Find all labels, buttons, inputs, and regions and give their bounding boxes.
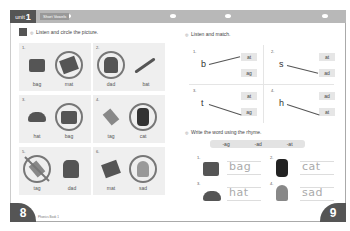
panel-number: 2. (96, 45, 99, 50)
rhyme-option: -at (287, 140, 293, 148)
item-number: 2. (271, 49, 274, 54)
match-line (209, 56, 240, 65)
written-word: sad (302, 186, 323, 199)
dad-icon[interactable] (59, 157, 83, 181)
panel-number: 6. (96, 149, 99, 154)
match-line (209, 104, 242, 115)
bat-icon[interactable] (133, 53, 157, 77)
left-page: ◎ Listen and circle the picture. 1. bag … (10, 23, 175, 222)
rime-option[interactable]: at (241, 53, 257, 61)
write-item-3: 3. hat (197, 181, 272, 205)
panel-number: 3. (22, 97, 25, 102)
write-item-2: 2. cat (270, 155, 345, 179)
word-caption: tag (96, 133, 126, 139)
panel-2: 2. dad bat (93, 43, 165, 91)
written-word: hat (229, 186, 249, 199)
match-line (287, 104, 320, 115)
word-caption: bag (54, 133, 84, 139)
written-word: bag (229, 160, 251, 173)
word-caption: dad (57, 185, 87, 191)
footer-text: Phonics Book 1 (38, 215, 59, 219)
instruction-text: Listen and match. (191, 31, 230, 37)
word-caption: mat (54, 81, 84, 87)
match-item-4: 4. h ad at (267, 86, 339, 120)
onset-letter: h (279, 98, 284, 108)
word-caption: bag (22, 81, 52, 87)
rime-option[interactable]: ag (241, 108, 257, 116)
rime-option[interactable]: at (319, 108, 335, 116)
rhyme-option: -ad (255, 140, 262, 148)
divider (189, 84, 334, 85)
rime-option[interactable]: ad (319, 69, 335, 77)
tag-icon[interactable] (99, 105, 123, 129)
panel-4: 4. tag cat (93, 95, 165, 143)
bag-icon[interactable] (25, 53, 49, 77)
instruction-write: ◎ Write the word using the rhyme. (185, 129, 262, 135)
panel-1: 1. bag mat (19, 43, 91, 91)
hat-icon (203, 185, 221, 203)
unit-number: 1 (26, 12, 31, 22)
panel-number: 5. (22, 149, 25, 154)
instruction-text: Write the word using the rhyme. (191, 129, 262, 135)
instruction-circle: ◎ Listen and circle the picture. (19, 28, 98, 36)
write-item-1: 1. bag (197, 155, 272, 179)
section-label: Short Vowels (40, 13, 69, 20)
unit-word: unit (15, 14, 25, 20)
word-caption: bat (131, 81, 161, 87)
decor-dot (225, 14, 231, 18)
decor-dot (170, 14, 176, 18)
match-item-1: 1. b at ag (189, 47, 261, 81)
write-item-4: 4. sad (270, 181, 345, 205)
unit-badge: unit 1 (10, 10, 36, 23)
rhyme-option: -ag (222, 140, 229, 148)
right-page: ◎ Listen and match. 1. b at ag 2. s at a… (175, 23, 346, 222)
rime-option[interactable]: ad (319, 92, 335, 100)
written-word: cat (302, 160, 321, 173)
rime-option[interactable]: at (319, 53, 335, 61)
book-spread: unit 1 Short Vowels ◎ Listen and circle … (0, 10, 350, 222)
instruction-match: ◎ Listen and match. (185, 31, 230, 37)
word-caption: cat (128, 133, 158, 139)
item-number: 1. (197, 155, 200, 160)
cat-icon[interactable] (129, 103, 157, 131)
item-number: 1. (193, 49, 196, 54)
decor-dot (322, 14, 328, 18)
cat-icon (276, 159, 294, 177)
sad-icon[interactable] (129, 155, 157, 183)
match-item-2: 2. s at ad (267, 47, 339, 81)
panel-number: 1. (22, 45, 25, 50)
onset-letter: s (279, 59, 284, 69)
panel-6: 6. mat sad (93, 147, 165, 195)
match-item-3: 3. t at ag (189, 86, 261, 120)
item-number: 3. (193, 88, 196, 93)
onset-letter: b (201, 59, 206, 69)
rime-option[interactable]: ag (241, 69, 257, 77)
hat-icon[interactable] (25, 105, 49, 129)
item-number: 3. (197, 181, 200, 186)
bag-icon (203, 159, 221, 177)
item-number: 4. (270, 181, 273, 186)
panel-number: 4. (96, 97, 99, 102)
instruction-text: Listen and circle the picture. (36, 29, 98, 35)
match-line (287, 65, 318, 74)
pencil-icon: ◎ (185, 130, 188, 135)
qr-code-icon[interactable] (19, 28, 27, 36)
word-caption: mat (96, 185, 126, 191)
word-caption: tag (22, 185, 52, 191)
rhyme-bank: -ag -ad -at (210, 140, 305, 148)
panel-3: 3. hat bag (19, 95, 91, 143)
onset-letter: t (201, 98, 204, 108)
word-caption: hat (22, 133, 52, 139)
mat-icon[interactable] (99, 157, 123, 181)
rime-option[interactable]: at (241, 92, 257, 100)
sad-icon (276, 185, 294, 203)
item-number: 4. (271, 88, 274, 93)
tag-icon[interactable] (23, 155, 51, 183)
word-caption: dad (96, 81, 126, 87)
bag-icon[interactable] (55, 103, 83, 131)
audio-icon: ◎ (185, 32, 188, 37)
panel-5: 5. tag dad (19, 147, 91, 195)
mat-icon[interactable] (55, 51, 83, 79)
audio-icon: ◎ (30, 30, 33, 35)
dad-icon[interactable] (97, 51, 125, 79)
